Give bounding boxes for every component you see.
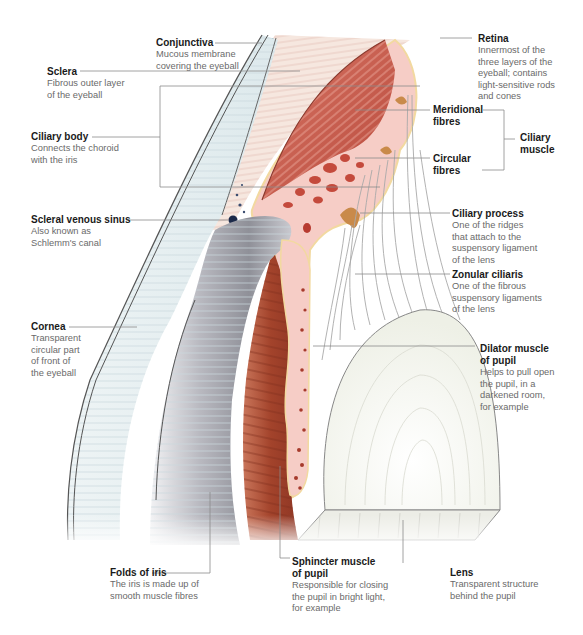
label-meridional-fibres: Meridional fibres: [433, 104, 483, 128]
label-sphincter-muscle-title: Sphincter muscle of pupil: [292, 556, 388, 580]
label-cornea-title: Cornea: [31, 321, 81, 333]
label-meridional-fibres-title: Meridional fibres: [433, 104, 483, 128]
label-zonular-ciliaris-desc: One of the fibrous suspensory ligaments …: [452, 281, 542, 316]
label-ciliary-body-desc: Connects the choroid with the iris: [31, 143, 119, 166]
label-dilator-muscle: Dilator muscle of pupil Helps to pull op…: [480, 343, 554, 413]
label-ciliary-body: Ciliary body Connects the choroid with t…: [31, 131, 119, 166]
label-conjunctiva-desc: Mucous membrane covering the eyeball: [156, 49, 239, 72]
label-scleral-venous-sinus-desc: Also known as Schlemm's canal: [31, 226, 131, 249]
label-sphincter-muscle: Sphincter muscle of pupil Responsible fo…: [292, 556, 388, 615]
label-scleral-venous-sinus-title: Scleral venous sinus: [31, 214, 131, 226]
bottom-fade: [60, 515, 520, 550]
label-folds-of-iris: Folds of iris The iris is made up of smo…: [110, 567, 199, 602]
label-lens: Lens Transparent structure behind the pu…: [450, 567, 539, 602]
label-folds-of-iris-title: Folds of iris: [110, 567, 199, 579]
label-zonular-ciliaris-title: Zonular ciliaris: [452, 269, 542, 281]
label-ciliary-muscle: Ciliary muscle: [520, 132, 554, 156]
label-sphincter-muscle-desc: Responsible for closing the pupil in bri…: [292, 580, 388, 615]
label-sclera-title: Sclera: [47, 66, 125, 78]
label-ciliary-process-desc: One of the ridges that attach to the sus…: [452, 220, 537, 266]
label-circular-fibres-title: Circular fibres: [433, 153, 471, 177]
label-retina: Retina Innermost of the three layers of …: [478, 33, 555, 103]
label-sclera-desc: Fibrous outer layer of the eyeball: [47, 78, 125, 101]
label-conjunctiva: Conjunctiva Mucous membrane covering the…: [156, 37, 239, 72]
label-ciliary-body-title: Ciliary body: [31, 131, 119, 143]
label-circular-fibres: Circular fibres: [433, 153, 471, 177]
label-ciliary-process: Ciliary process One of the ridges that a…: [452, 208, 537, 266]
label-scleral-venous-sinus: Scleral venous sinus Also known as Schle…: [31, 214, 131, 249]
label-conjunctiva-title: Conjunctiva: [156, 37, 239, 49]
label-lens-desc: Transparent structure behind the pupil: [450, 579, 539, 602]
label-dilator-muscle-title: Dilator muscle of pupil: [480, 343, 554, 367]
lens-shape: [298, 310, 500, 540]
label-cornea: Cornea Transparent circular part of fron…: [31, 321, 81, 379]
label-ciliary-process-title: Ciliary process: [452, 208, 537, 220]
label-folds-of-iris-desc: The iris is made up of smooth muscle fib…: [110, 579, 199, 602]
label-ciliary-muscle-title: Ciliary muscle: [520, 132, 554, 156]
label-retina-desc: Innermost of the three layers of the eye…: [478, 45, 555, 103]
label-cornea-desc: Transparent circular part of front of th…: [31, 333, 81, 379]
label-zonular-ciliaris: Zonular ciliaris One of the fibrous susp…: [452, 269, 542, 316]
label-dilator-muscle-desc: Helps to pull open the pupil, in a darke…: [480, 367, 554, 413]
label-retina-title: Retina: [478, 33, 555, 45]
label-sclera: Sclera Fibrous outer layer of the eyebal…: [47, 66, 125, 101]
label-lens-title: Lens: [450, 567, 539, 579]
